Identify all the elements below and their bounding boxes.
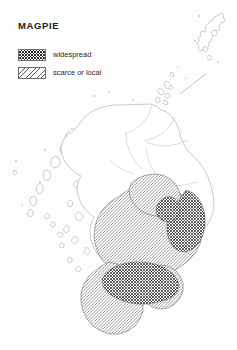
legend-swatch-widespread xyxy=(18,49,46,61)
legend-item-scarce-or-local: scarce or local xyxy=(18,66,101,79)
legend-label-widespread: widespread xyxy=(53,50,91,59)
shetland-inset xyxy=(180,13,225,94)
map-page: MAGPIE widespread scarce or local xyxy=(0,0,237,350)
map-title: MAGPIE xyxy=(18,20,59,31)
orkney-islands xyxy=(155,66,187,105)
legend-item-widespread: widespread xyxy=(18,48,101,61)
legend-swatch-scarce-or-local xyxy=(18,67,46,79)
legend-label-scarce-or-local: scarce or local xyxy=(53,68,101,77)
map-legend: widespread scarce or local xyxy=(18,48,101,84)
